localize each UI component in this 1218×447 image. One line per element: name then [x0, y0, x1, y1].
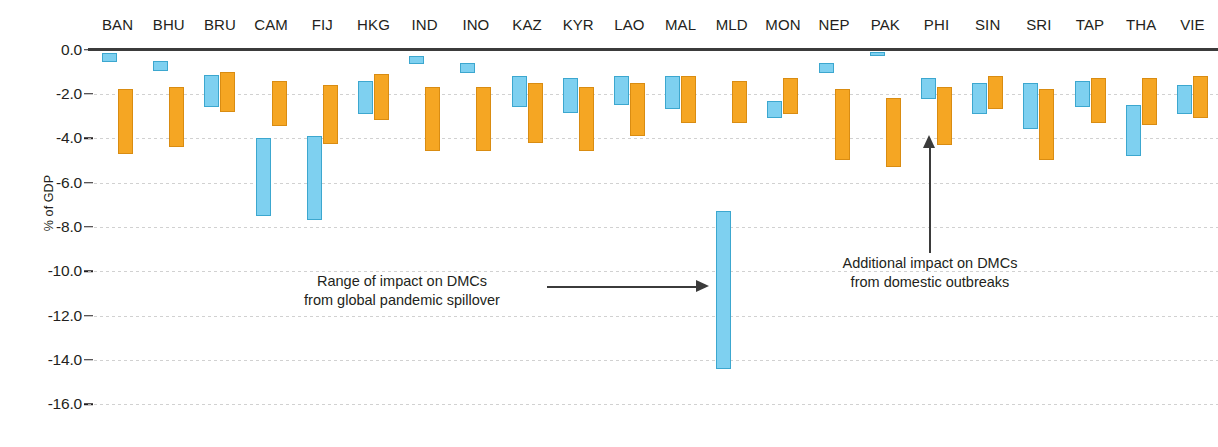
- bar-ino-spillover: [476, 87, 491, 151]
- annotation-spillover-leader: [547, 286, 699, 288]
- gridline: [88, 404, 1218, 405]
- bar-sin-spillover: [988, 76, 1003, 109]
- annotation-domestic-line1: Additional impact on DMCs: [790, 254, 1070, 273]
- x-axis-label-fij: FIJ: [312, 16, 333, 33]
- y-axis-tick-label: -2.0: [0, 85, 82, 103]
- y-axis-tick-label: -10.0: [0, 262, 82, 280]
- x-axis-label-ind: IND: [412, 16, 438, 33]
- bar-cam-spillover: [272, 81, 287, 126]
- bar-ind-domestic: [409, 56, 424, 64]
- bar-phi-domestic: [921, 78, 936, 99]
- y-axis-tick-label: -14.0: [0, 351, 82, 369]
- x-axis-label-tap: TAP: [1076, 16, 1104, 33]
- bar-kaz-domestic: [512, 76, 527, 107]
- bar-mal-spillover: [681, 76, 696, 123]
- zero-axis-line: [88, 48, 1218, 50]
- gridline: [88, 316, 1218, 317]
- bar-pak-domestic: [870, 52, 885, 56]
- bar-fij-domestic: [307, 136, 322, 220]
- x-axis-label-hkg: HKG: [357, 16, 390, 33]
- bar-lao-spillover: [630, 83, 645, 136]
- bar-pak-spillover: [886, 98, 901, 167]
- x-axis-label-mon: MON: [765, 16, 800, 33]
- annotation-spillover-arrowhead: [696, 280, 709, 292]
- x-axis-label-bru: BRU: [204, 16, 236, 33]
- bar-mal-domestic: [665, 76, 680, 109]
- annotation-spillover: Range of impact on DMCs from global pand…: [262, 272, 542, 310]
- gridline: [88, 360, 1218, 361]
- y-axis-tick-label: -6.0: [0, 174, 82, 192]
- bar-bru-domestic: [204, 75, 219, 107]
- bar-hkg-domestic: [358, 81, 373, 114]
- x-axis-label-pak: PAK: [871, 16, 900, 33]
- bar-mon-domestic: [767, 101, 782, 119]
- bar-phi-spillover: [937, 87, 952, 145]
- bar-ind-spillover: [425, 87, 440, 151]
- bar-mld-spillover: [732, 81, 747, 123]
- bar-lao-domestic: [614, 76, 629, 105]
- bar-nep-domestic: [819, 63, 834, 73]
- annotation-domestic-line2: from domestic outbreaks: [790, 273, 1070, 292]
- x-axis-label-tha: THA: [1126, 16, 1156, 33]
- bar-tap-spillover: [1091, 78, 1106, 122]
- bar-kyr-spillover: [579, 87, 594, 151]
- x-axis-label-kyr: KYR: [563, 16, 594, 33]
- bar-bhu-domestic: [153, 61, 168, 71]
- y-axis-tick-label: -8.0: [0, 218, 82, 236]
- annotation-domestic-arrowhead: [923, 135, 935, 148]
- x-axis-label-ban: BAN: [102, 16, 133, 33]
- bar-bru-spillover: [220, 72, 235, 112]
- annotation-domestic: Additional impact on DMCs from domestic …: [790, 254, 1070, 292]
- bar-tha-spillover: [1142, 78, 1157, 125]
- annotation-domestic-leader: [929, 148, 931, 253]
- bar-sin-domestic: [972, 83, 987, 114]
- bar-mld-domestic: [716, 211, 731, 368]
- x-axis-label-mal: MAL: [665, 16, 696, 33]
- x-axis-label-sri: SRI: [1026, 16, 1051, 33]
- gridline: [88, 227, 1218, 228]
- bar-tha-domestic: [1126, 105, 1141, 156]
- bar-vie-spillover: [1193, 76, 1208, 118]
- bar-kaz-spillover: [528, 83, 543, 143]
- x-axis-label-lao: LAO: [614, 16, 644, 33]
- x-axis-label-ino: INO: [462, 16, 489, 33]
- x-axis-label-kaz: KAZ: [512, 16, 541, 33]
- bar-nep-spillover: [835, 89, 850, 160]
- bar-hkg-spillover: [374, 74, 389, 121]
- annotation-spillover-line1: Range of impact on DMCs: [262, 272, 542, 291]
- bar-mon-spillover: [783, 78, 798, 113]
- y-axis-title: % of GDP: [42, 148, 56, 258]
- bar-fij-spillover: [323, 85, 338, 144]
- x-axis-label-phi: PHI: [924, 16, 949, 33]
- chart-root: % of GDP 0.0-2.0-4.0-6.0-8.0-10.0-12.0-1…: [0, 0, 1218, 447]
- bar-ban-spillover: [118, 89, 133, 153]
- bar-ino-domestic: [460, 63, 475, 73]
- y-axis-tick-label: -16.0: [0, 395, 82, 413]
- bar-sri-spillover: [1039, 89, 1054, 160]
- bar-kyr-domestic: [563, 78, 578, 112]
- bar-cam-domestic: [256, 138, 271, 216]
- y-axis-tick-label: 0.0: [0, 41, 82, 59]
- x-axis-label-vie: VIE: [1180, 16, 1204, 33]
- bar-sri-domestic: [1023, 83, 1038, 130]
- y-axis-tick-label: -12.0: [0, 307, 82, 325]
- bar-ban-domestic: [102, 53, 117, 62]
- x-axis-label-cam: CAM: [254, 16, 288, 33]
- x-axis-label-bhu: BHU: [153, 16, 185, 33]
- x-axis-label-nep: NEP: [819, 16, 850, 33]
- x-axis-label-sin: SIN: [975, 16, 1000, 33]
- y-axis-tick-label: -4.0: [0, 129, 82, 147]
- bar-bhu-spillover: [169, 87, 184, 147]
- bar-vie-domestic: [1177, 85, 1192, 114]
- bar-tap-domestic: [1075, 81, 1090, 108]
- annotation-spillover-line2: from global pandemic spillover: [262, 291, 542, 310]
- x-axis-label-mld: MLD: [716, 16, 748, 33]
